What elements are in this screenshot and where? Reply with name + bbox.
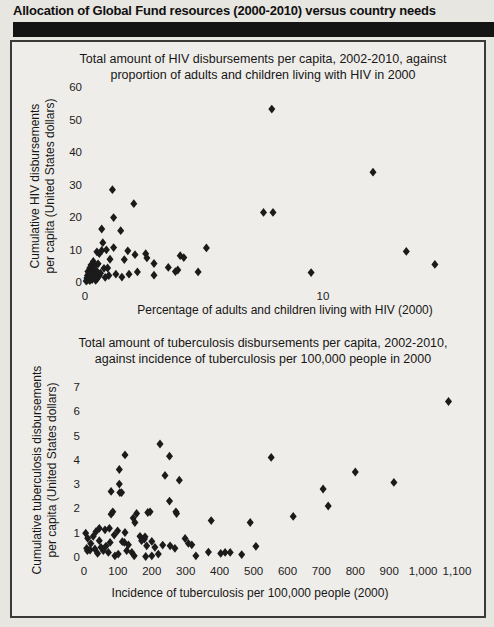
scatter-point bbox=[132, 250, 139, 259]
x-tick-label: 700 bbox=[312, 565, 331, 577]
scatter-point bbox=[227, 548, 234, 557]
hiv-y-axis-label-line1: Cumulative HIV disbursements bbox=[28, 86, 43, 286]
x-tick-label: 1,100 bbox=[443, 565, 472, 577]
x-tick-label: 100 bbox=[108, 565, 127, 577]
scatter-point bbox=[103, 245, 110, 254]
scatter-point bbox=[208, 516, 215, 525]
scatter-point bbox=[162, 471, 169, 480]
figure-title: Allocation of Global Fund resources (200… bbox=[13, 3, 487, 18]
y-tick-label: 7 bbox=[74, 381, 80, 393]
hiv-scatter-plot: 0100102030405060 bbox=[10, 44, 486, 346]
scatter-point bbox=[116, 465, 123, 474]
tb-y-axis-label-line1: Cumulative tuberculosis disbursements bbox=[30, 365, 45, 575]
scatter-point bbox=[166, 452, 173, 461]
scatter-point bbox=[203, 244, 210, 253]
scatter-point bbox=[308, 268, 315, 277]
scatter-point bbox=[165, 263, 172, 272]
y-tick-label: 30 bbox=[69, 179, 82, 191]
scatter-point bbox=[99, 238, 106, 247]
scatter-point bbox=[118, 273, 125, 282]
y-tick-label: 10 bbox=[69, 244, 82, 256]
hiv-y-axis-label-line2: per capita (United States dollars) bbox=[43, 86, 58, 286]
scatter-point bbox=[260, 208, 267, 217]
scatter-point bbox=[247, 518, 254, 527]
scatter-point bbox=[121, 255, 128, 264]
tb-chart-title-line1: Total amount of tuberculosis disbursemen… bbox=[58, 335, 468, 351]
scatter-point bbox=[195, 268, 202, 277]
x-tick-label: 0 bbox=[82, 290, 88, 302]
scatter-point bbox=[403, 247, 410, 256]
scatter-point bbox=[148, 551, 155, 560]
scatter-point bbox=[205, 548, 212, 557]
scatter-point bbox=[122, 528, 129, 537]
y-tick-label: 50 bbox=[69, 114, 82, 126]
scatter-point bbox=[151, 271, 158, 280]
scatter-point bbox=[126, 270, 133, 279]
x-tick-label: 300 bbox=[176, 565, 195, 577]
y-tick-label: 0 bbox=[74, 551, 80, 563]
y-tick-label: 3 bbox=[74, 478, 80, 490]
y-tick-label: 6 bbox=[74, 405, 80, 417]
scatter-point bbox=[96, 536, 103, 545]
tb-y-axis-label: Cumulative tuberculosis disbursements pe… bbox=[30, 365, 64, 575]
scatter-point bbox=[116, 480, 123, 489]
scatter-point bbox=[270, 208, 277, 217]
scatter-point bbox=[370, 168, 377, 177]
y-tick-label: 0 bbox=[76, 276, 82, 288]
hiv-chart-title-line2: proportion of adults and children living… bbox=[58, 67, 468, 83]
scatter-point bbox=[268, 105, 275, 114]
scatter-point bbox=[107, 255, 114, 264]
x-tick-label: 900 bbox=[380, 565, 399, 577]
scatter-point bbox=[390, 478, 397, 487]
hiv-y-axis-label: Cumulative HIV disbursements per capita … bbox=[28, 86, 62, 286]
scatter-point bbox=[252, 542, 259, 551]
scatter-point bbox=[98, 225, 105, 234]
scatter-point bbox=[110, 243, 117, 252]
scatter-point bbox=[325, 502, 332, 511]
scatter-point bbox=[110, 213, 117, 222]
header-bar bbox=[13, 22, 494, 37]
scatter-point bbox=[117, 226, 124, 235]
x-tick-label: 500 bbox=[244, 565, 263, 577]
x-tick-label: 600 bbox=[278, 565, 297, 577]
scatter-point bbox=[142, 552, 149, 561]
tb-x-axis-label: Incidence of tuberculosis per 100,000 pe… bbox=[45, 586, 455, 600]
scatter-point bbox=[151, 259, 158, 268]
hiv-chart-title-line1: Total amount of HIV disbursements per ca… bbox=[58, 51, 468, 67]
scatter-point bbox=[176, 476, 183, 485]
x-tick-label: 800 bbox=[346, 565, 365, 577]
x-tick-label: 0 bbox=[81, 565, 87, 577]
scatter-point bbox=[445, 397, 452, 406]
scatter-point bbox=[290, 512, 297, 521]
scatter-point bbox=[320, 485, 327, 494]
hiv-x-axis-label: Percentage of adults and children living… bbox=[80, 303, 490, 317]
x-tick-label: 10 bbox=[317, 290, 330, 302]
scatter-point bbox=[157, 440, 164, 449]
scatter-point bbox=[112, 270, 119, 279]
y-tick-label: 1 bbox=[74, 527, 80, 539]
scatter-point bbox=[108, 487, 115, 496]
scatter-point bbox=[124, 246, 131, 255]
x-tick-label: 1,000 bbox=[409, 565, 438, 577]
x-tick-label: 400 bbox=[210, 565, 229, 577]
scatter-point bbox=[192, 551, 199, 560]
y-tick-label: 20 bbox=[69, 211, 82, 223]
tb-chart-title-line2: against incidence of tuberculosis per 10… bbox=[58, 351, 468, 367]
tb-y-axis-label-line2: per capita (United States dollars) bbox=[45, 365, 60, 575]
scatter-point bbox=[159, 541, 166, 550]
scatter-point bbox=[122, 451, 129, 460]
scatter-point bbox=[238, 550, 245, 559]
scatter-point bbox=[109, 185, 116, 194]
scatter-point bbox=[155, 550, 162, 559]
y-tick-label: 4 bbox=[74, 454, 81, 466]
y-tick-label: 40 bbox=[69, 146, 82, 158]
scatter-point bbox=[130, 199, 137, 208]
scatter-point bbox=[166, 497, 173, 506]
scatter-point bbox=[352, 468, 359, 477]
hiv-chart-title: Total amount of HIV disbursements per ca… bbox=[58, 51, 468, 83]
scatter-point bbox=[134, 268, 141, 277]
scatter-point bbox=[268, 453, 275, 462]
scatter-point bbox=[431, 260, 438, 269]
tb-chart-title: Total amount of tuberculosis disbursemen… bbox=[58, 335, 468, 367]
x-tick-label: 200 bbox=[142, 565, 161, 577]
